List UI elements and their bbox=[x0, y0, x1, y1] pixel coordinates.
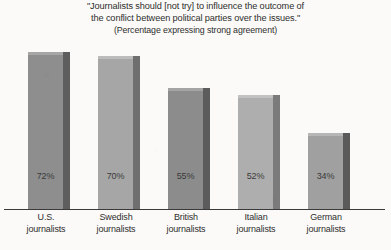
category-label-0-line-2: journalists bbox=[10, 224, 82, 236]
category-label-4-line-2: journalists bbox=[290, 224, 362, 236]
category-label-2-line-2: journalists bbox=[150, 224, 222, 236]
bar-front-face-0 bbox=[28, 55, 63, 209]
bar-value-label-1: 70% bbox=[98, 171, 133, 181]
bar-value-label-3: 52% bbox=[238, 171, 273, 181]
category-label-2-line-1: British bbox=[150, 212, 222, 224]
bar-side-face-0 bbox=[63, 52, 70, 209]
x-axis-line bbox=[4, 209, 385, 210]
bar-side-face-2 bbox=[203, 88, 210, 209]
category-label-3: Italian journalists bbox=[220, 212, 292, 235]
bar-front-face-1 bbox=[98, 59, 133, 209]
category-label-0-line-1: U.S. bbox=[10, 212, 82, 224]
category-label-1-line-1: Swedish bbox=[80, 212, 152, 224]
chart-title-line-2: the conflict between political parties o… bbox=[0, 13, 391, 25]
category-label-2: British journalists bbox=[150, 212, 222, 235]
category-label-1-line-2: journalists bbox=[80, 224, 152, 236]
bar-value-label-0: 72% bbox=[28, 171, 63, 181]
chart-subtitle: (Percentage expressing strong agreement) bbox=[0, 25, 391, 37]
category-label-3-line-1: Italian bbox=[220, 212, 292, 224]
bar-value-label-4: 34% bbox=[308, 171, 343, 181]
category-label-0: U.S. journalists bbox=[10, 212, 82, 235]
bar-front-face-3 bbox=[238, 98, 273, 209]
category-label-4: German journalists bbox=[290, 212, 362, 235]
bar-side-face-3 bbox=[273, 95, 280, 209]
bar-side-face-4 bbox=[343, 133, 350, 209]
bar-value-label-2: 55% bbox=[168, 171, 203, 181]
chart-title: "Journalists should [not try] to influen… bbox=[0, 1, 391, 37]
bar-front-face-2 bbox=[168, 91, 203, 209]
chart-title-line-1: "Journalists should [not try] to influen… bbox=[0, 1, 391, 13]
plot-area: 72% 70% 55% 52% 34% bbox=[0, 38, 391, 210]
category-label-3-line-2: journalists bbox=[220, 224, 292, 236]
category-label-1: Swedish journalists bbox=[80, 212, 152, 235]
category-label-4-line-1: German bbox=[290, 212, 362, 224]
bar-side-face-1 bbox=[133, 56, 140, 209]
